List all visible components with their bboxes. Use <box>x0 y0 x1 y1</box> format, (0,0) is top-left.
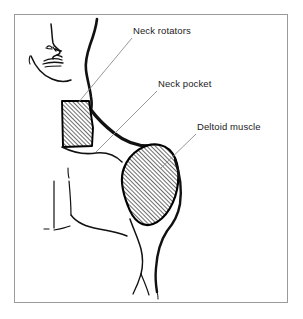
label-deltoid-muscle: Deltoid muscle <box>197 121 261 132</box>
neck-rotators-region <box>62 101 93 147</box>
label-neck-pocket: Neck pocket <box>158 78 211 89</box>
label-neck-rotators: Neck rotators <box>133 25 191 36</box>
anatomy-illustration <box>0 0 303 319</box>
anatomy-figure: Neck rotators Neck pocket Deltoid muscle <box>0 0 303 319</box>
